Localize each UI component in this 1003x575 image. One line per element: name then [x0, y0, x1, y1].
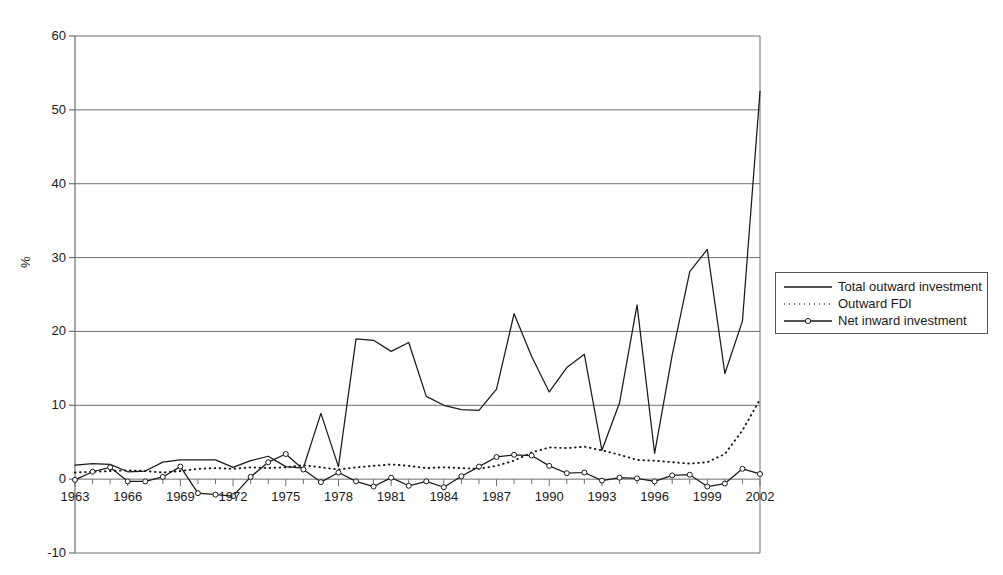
series-marker-2 [406, 483, 411, 488]
series-marker-2 [178, 464, 183, 469]
series-marker-2 [90, 469, 95, 474]
y-tick-label: 40 [22, 177, 66, 190]
series-marker-2 [617, 475, 622, 480]
x-tick-label: 1987 [470, 490, 524, 503]
series-marker-2 [476, 464, 481, 469]
series-marker-2 [336, 470, 341, 475]
x-tick-label: 1978 [311, 490, 365, 503]
legend-line-swatch-icon [782, 314, 834, 328]
series-marker-2 [354, 479, 359, 484]
series-marker-2 [758, 471, 763, 476]
series-marker-2 [459, 474, 464, 479]
y-tick-label: 10 [22, 398, 66, 411]
series-marker-2 [494, 454, 499, 459]
series-marker-2 [73, 477, 78, 482]
series-marker-2 [125, 479, 130, 484]
series-marker-2 [512, 452, 517, 457]
legend-item[interactable]: Outward FDI [782, 295, 981, 312]
legend-item-label: Net inward investment [834, 314, 967, 327]
series-marker-2 [635, 476, 640, 481]
y-tick-label: -10 [22, 546, 66, 559]
series-marker-2 [547, 463, 552, 468]
y-tick-label: 0 [22, 472, 66, 485]
legend-item[interactable]: Net inward investment [782, 312, 981, 329]
series-marker-2 [529, 453, 534, 458]
y-tick-label: 60 [22, 29, 66, 42]
x-tick-label: 1984 [417, 490, 471, 503]
x-tick-label: 1999 [680, 490, 734, 503]
y-axis-tick-marks [69, 36, 75, 553]
y-tick-label: 50 [22, 103, 66, 116]
series-marker-2 [652, 479, 657, 484]
x-tick-label: 1966 [101, 490, 155, 503]
series-marker-2 [266, 460, 271, 465]
x-tick-label: 2002 [733, 490, 787, 503]
x-tick-label: 1972 [206, 490, 260, 503]
series-marker-2 [301, 467, 306, 472]
chart-legend: Total outward investmentOutward FDINet i… [775, 272, 988, 334]
chart-figure: % -100102030405060 196319661969197219751… [0, 0, 1003, 575]
series-marker-2 [371, 484, 376, 489]
axes-lines [75, 36, 760, 553]
series-marker-2 [582, 470, 587, 475]
series-marker-2 [722, 481, 727, 486]
series-marker-2 [740, 466, 745, 471]
series-marker-2 [670, 473, 675, 478]
series-marker-2 [143, 479, 148, 484]
series-marker-2 [108, 465, 113, 470]
series-marker-2 [599, 478, 604, 483]
y-tick-label: 30 [22, 251, 66, 264]
x-tick-label: 1981 [364, 490, 418, 503]
series-marker-2 [283, 452, 288, 457]
x-tick-label: 1996 [628, 490, 682, 503]
series-marker-2 [564, 471, 569, 476]
legend-item[interactable]: Total outward investment [782, 278, 981, 295]
legend-item-label: Total outward investment [834, 280, 982, 293]
x-tick-label: 1969 [153, 490, 207, 503]
series-marker-2 [687, 472, 692, 477]
data-series-layer [73, 91, 763, 498]
series-marker-2 [160, 474, 165, 479]
x-tick-label: 1975 [259, 490, 313, 503]
y-tick-label: 20 [22, 324, 66, 337]
series-marker-2 [424, 479, 429, 484]
legend-line-swatch-icon [782, 280, 834, 294]
legend-line-swatch-icon [782, 297, 834, 311]
gridlines [75, 36, 760, 553]
legend-item-label: Outward FDI [834, 297, 912, 310]
x-tick-label: 1963 [48, 490, 102, 503]
series-marker-2 [389, 475, 394, 480]
x-tick-label: 1990 [522, 490, 576, 503]
series-line-0 [75, 91, 760, 471]
x-tick-label: 1993 [575, 490, 629, 503]
series-marker-2 [318, 480, 323, 485]
series-marker-2 [248, 474, 253, 479]
